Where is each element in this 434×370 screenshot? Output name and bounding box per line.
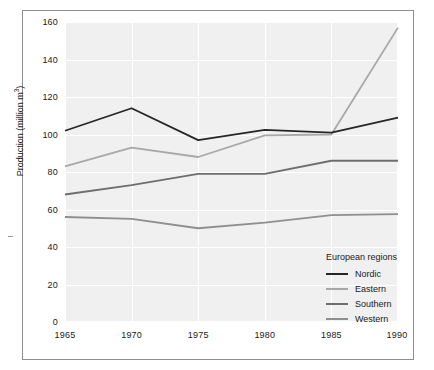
x-tick-label: 1980	[245, 330, 285, 340]
chart-figure: 160 140 120 100 80 60 40 20 0 Production…	[0, 0, 434, 370]
series-line-eastern	[65, 28, 398, 167]
x-tick-label: 1985	[311, 330, 351, 340]
legend-title: European regions	[326, 252, 424, 262]
legend-label-nordic: Nordic	[355, 269, 381, 279]
legend-item-eastern[interactable]: Eastern	[326, 282, 424, 295]
series-line-nordic	[65, 108, 398, 140]
legend-item-southern[interactable]: Southern	[326, 297, 424, 310]
legend-swatch-western	[326, 318, 348, 320]
x-tick-label: 1990	[377, 330, 417, 340]
x-tick-label: 1965	[45, 330, 85, 340]
legend-swatch-southern	[326, 303, 348, 305]
x-tick-label: 1970	[112, 330, 152, 340]
chart-legend: European regions Nordic Eastern Southern…	[326, 252, 424, 327]
series-line-southern	[65, 161, 398, 195]
legend-swatch-nordic	[326, 273, 348, 275]
x-tick-label: 1975	[178, 330, 218, 340]
legend-label-eastern: Eastern	[355, 284, 386, 294]
legend-label-western: Western	[355, 314, 388, 324]
legend-item-western[interactable]: Western	[326, 312, 424, 325]
legend-item-nordic[interactable]: Nordic	[326, 267, 424, 280]
legend-label-southern: Southern	[355, 299, 392, 309]
legend-swatch-eastern	[326, 288, 348, 290]
series-line-western	[65, 214, 398, 228]
